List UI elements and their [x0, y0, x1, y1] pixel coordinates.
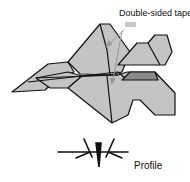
tape-swatch — [125, 22, 136, 27]
airplane-diagram — [0, 0, 190, 182]
profile-label: Profile — [134, 160, 162, 171]
tape-label: Double-sided tape — [119, 8, 190, 18]
airplane-body — [12, 24, 175, 123]
main-body-panel — [68, 72, 175, 123]
left-fin-panel — [68, 24, 130, 75]
profile-view — [58, 139, 128, 167]
